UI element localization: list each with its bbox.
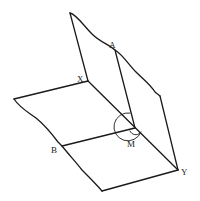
label-X: X: [77, 74, 84, 84]
label-M: M: [127, 139, 135, 149]
upper-plane-top-wavy-edge: [70, 13, 160, 96]
label-B: B: [51, 145, 57, 155]
segment-AM: [115, 50, 135, 128]
label-Y: Y: [181, 167, 188, 177]
upper-plane-right-edge: [160, 96, 178, 170]
lower-plane-left-wavy-edge: [14, 99, 102, 191]
edge-XY: [88, 81, 178, 170]
diagram-canvas: A X B M Y: [0, 0, 200, 201]
upper-plane-left-edge: [70, 13, 88, 81]
angle-arc-AMB: [114, 113, 141, 141]
lower-plane-bottom-edge: [102, 170, 178, 191]
label-A: A: [109, 40, 116, 50]
segment-BM: [62, 128, 135, 146]
dihedral-angle-diagram: A X B M Y: [0, 0, 200, 201]
